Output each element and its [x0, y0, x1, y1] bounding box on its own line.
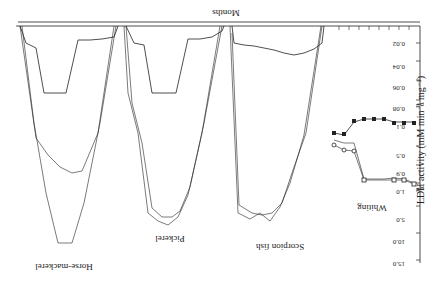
panel-pickerel [124, 26, 224, 225]
svg-text:1.0: 1.0 [396, 188, 405, 196]
y-tick-labels: 15.0 10.0 5.0 1.0 0.9 0.5 0.1 0.08 0.06 … [392, 40, 405, 268]
svg-text:10.0: 10.0 [392, 238, 405, 246]
y-axis-title: LDH activity (mM min⁻¹ mg⁻¹) [415, 76, 427, 204]
svg-text:5.0: 5.0 [396, 216, 405, 224]
panel-horse-mackerel [20, 26, 118, 243]
svg-text:0.08: 0.08 [392, 105, 405, 113]
label-horse-mackerel: Horse-mackerel [35, 262, 93, 272]
svg-text:0.5: 0.5 [396, 152, 405, 160]
label-whiting: Whiting [357, 203, 387, 213]
svg-text:0.02: 0.02 [392, 40, 405, 48]
svg-text:0.04: 0.04 [392, 63, 405, 71]
svg-text:0.9: 0.9 [396, 170, 405, 178]
svg-text:0.1: 0.1 [396, 123, 405, 131]
ldh-activity-figure: Months LDH activity (mM min⁻¹ mg⁻¹) Whit… [0, 0, 444, 283]
svg-text:15.0: 15.0 [392, 260, 405, 268]
label-scorpion-fish: Scorpion fish [255, 242, 304, 252]
label-pickerel: Pickerel [155, 234, 185, 244]
panel-scorpion-fish [230, 26, 324, 221]
x-axis-title: Months [212, 8, 240, 18]
svg-text:0.06: 0.06 [392, 84, 405, 92]
